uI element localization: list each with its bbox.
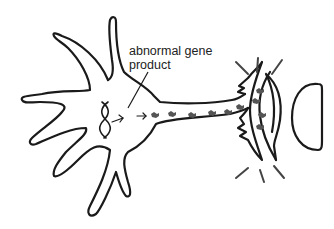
label-abnormal-gene-product: abnormal gene product xyxy=(129,44,212,72)
postsynaptic-cell xyxy=(292,84,322,150)
expression-arrow-icon xyxy=(112,115,123,122)
label-line-1: abnormal gene xyxy=(129,44,212,58)
diagram-svg xyxy=(0,0,334,229)
protein-arrow-icon xyxy=(137,113,146,119)
neuron-diagram: abnormal gene product xyxy=(0,0,334,229)
dna-helix-icon xyxy=(100,102,111,138)
label-line-2: product xyxy=(129,58,212,72)
abnormal-protein-aggregates xyxy=(151,88,266,130)
